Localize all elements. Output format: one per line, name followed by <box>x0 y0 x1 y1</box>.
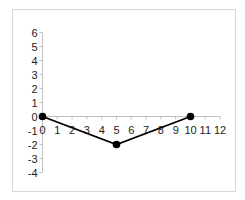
y-tick-label: 6 <box>31 27 37 39</box>
y-tick-label: 5 <box>31 41 37 53</box>
y-tick-label: -1 <box>28 125 38 137</box>
y-tick-label: 3 <box>31 69 37 81</box>
data-point-marker <box>113 141 121 149</box>
data-point-marker <box>187 113 195 121</box>
x-tick-label: 2 <box>69 124 75 136</box>
y-tick-label: 2 <box>31 83 37 95</box>
data-point-marker <box>39 113 47 121</box>
x-tick-label: 0 <box>39 124 45 136</box>
x-tick-label: 8 <box>158 124 164 136</box>
y-tick-label: 4 <box>31 55 37 67</box>
x-tick-label: 1 <box>54 124 60 136</box>
x-tick-label: 11 <box>200 124 211 136</box>
x-tick-label: 4 <box>99 124 105 136</box>
x-tick-label: 10 <box>184 124 196 136</box>
y-tick-label: 1 <box>31 97 37 109</box>
x-tick-label: 12 <box>214 124 226 136</box>
y-tick-label: -3 <box>28 153 38 165</box>
x-tick-label: 5 <box>113 124 119 136</box>
line-chart: 6543210-1-2-3-40123456789101112 <box>0 0 245 200</box>
y-tick-label: 0 <box>31 111 37 123</box>
x-tick-label: 6 <box>128 124 134 136</box>
x-tick-label: 9 <box>173 124 179 136</box>
y-tick-label: -4 <box>28 167 38 179</box>
y-tick-label: -2 <box>28 139 38 151</box>
